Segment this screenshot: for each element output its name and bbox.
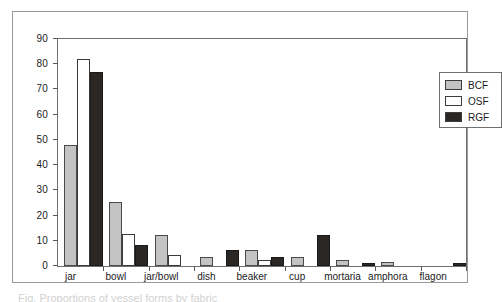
bar-jar-bcf xyxy=(64,145,77,266)
legend-item-bcf: BCF xyxy=(445,77,497,93)
bar-bowl-bcf xyxy=(109,202,122,266)
bar-mortaria-rgf xyxy=(362,263,375,266)
y-tick-label: 90 xyxy=(22,31,48,46)
bar-jar-bowl-osf xyxy=(168,255,181,266)
bar-jar-bowl-bcf xyxy=(155,235,168,266)
bar-dish-bcf xyxy=(200,257,213,266)
y-tick-label: 40 xyxy=(22,157,48,172)
plot-area: 0102030405060708090 BCFOSFRGF xyxy=(57,38,467,267)
legend-item-rgf: RGF xyxy=(445,109,497,125)
bar-jar-rgf xyxy=(90,72,103,266)
legend-swatch-bcf xyxy=(445,80,462,90)
y-tick-label: 80 xyxy=(22,56,48,71)
bar-flagon-rgf xyxy=(453,263,466,266)
bar-bowl-osf xyxy=(122,234,135,266)
figure-caption: Fig. Proportions of vessel forms by fabr… xyxy=(18,292,458,302)
bar-beaker-bcf xyxy=(245,250,258,266)
y-tick-label: 60 xyxy=(22,107,48,122)
legend-label-rgf: RGF xyxy=(468,112,489,123)
bar-beaker-rgf xyxy=(271,257,284,266)
bar-jar-osf xyxy=(77,59,90,266)
x-axis-tick xyxy=(466,266,467,271)
bar-bowl-rgf xyxy=(135,245,148,266)
y-tick-label: 30 xyxy=(22,182,48,197)
bar-cup-bcf xyxy=(291,257,304,266)
figure-frame: 0102030405060708090 BCFOSFRGF jarbowljar… xyxy=(12,11,468,283)
y-tick-label: 50 xyxy=(22,132,48,147)
bar-dish-rgf xyxy=(226,250,239,266)
bars-layer xyxy=(58,39,466,266)
x-axis-label-flagon: flagon xyxy=(403,270,463,283)
legend-swatch-osf xyxy=(445,96,462,106)
bar-amphora-bcf xyxy=(381,262,394,266)
legend-swatch-rgf xyxy=(445,112,462,122)
y-tick-label: 10 xyxy=(22,233,48,248)
bar-beaker-osf xyxy=(258,260,271,266)
bar-cup-rgf xyxy=(317,235,330,266)
legend-item-osf: OSF xyxy=(445,93,497,109)
y-tick-label: 70 xyxy=(22,81,48,96)
bar-mortaria-bcf xyxy=(336,260,349,266)
legend-label-bcf: BCF xyxy=(468,80,488,91)
y-tick-label: 20 xyxy=(22,208,48,223)
legend-label-osf: OSF xyxy=(468,96,489,107)
chart-legend: BCFOSFRGF xyxy=(439,72,502,128)
